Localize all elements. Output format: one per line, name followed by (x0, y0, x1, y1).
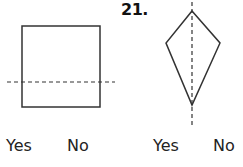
square-figure (7, 26, 115, 107)
figures-canvas (0, 0, 243, 167)
answer-yes-2[interactable]: Yes (153, 136, 179, 155)
answer-no-2[interactable]: No (213, 136, 235, 155)
answer-yes-1[interactable]: Yes (6, 136, 32, 155)
answer-no-1[interactable]: No (67, 136, 89, 155)
problem-number: 21. (121, 0, 148, 19)
kite-figure (166, 2, 220, 126)
